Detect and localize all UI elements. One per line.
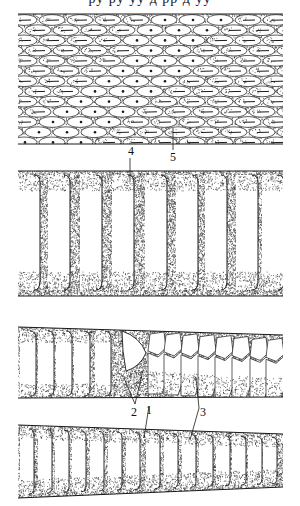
panel-4-tapering-scutes: [18, 424, 284, 500]
panel-1-dorsal-scales: [0, 14, 300, 148]
figure-label-2: 2: [131, 405, 137, 419]
figure-label-4: 4: [128, 144, 134, 158]
figure-label-1: 1: [146, 403, 152, 417]
figure-label-3: 3: [200, 405, 206, 419]
figure-label-5: 5: [170, 150, 176, 164]
panel-3-transition-scales: [18, 325, 288, 400]
panel-2-ventral-scutes: [18, 171, 285, 296]
scale-illustration: 45213: [0, 0, 300, 506]
